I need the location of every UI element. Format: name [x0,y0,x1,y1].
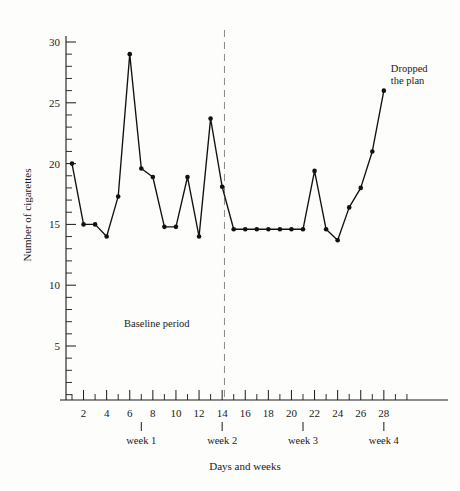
data-point [254,227,259,232]
data-point [116,194,121,199]
data-point [231,227,236,232]
data-point [197,234,202,239]
week-marker-label: week 4 [369,435,400,446]
data-point [127,52,132,57]
x-tick-label: 2 [81,407,87,419]
x-tick-label: 14 [217,407,229,419]
data-point [243,227,248,232]
x-tick-label: 22 [309,407,320,419]
data-point [208,116,213,121]
x-tick-label: 20 [286,407,298,419]
x-tick-label: 4 [104,407,110,419]
data-point [185,175,190,180]
week-marker-label: week 1 [126,435,156,446]
y-axis-title: Number of cigarettes [21,169,33,262]
x-tick-label: 24 [332,407,344,419]
chart-svg: 51015202530 246810121416182022242628 wee… [0,0,460,491]
data-point [358,186,363,191]
x-tick-label: 12 [194,407,205,419]
data-point [382,88,387,93]
data-point [312,169,317,174]
data-point [93,222,98,227]
week-marker-label: week 2 [207,435,237,446]
data-point [162,225,167,230]
data-series-group [70,52,386,243]
data-line [72,54,384,240]
data-point [139,166,144,171]
y-tick-label: 10 [49,279,61,291]
y-tick-label: 30 [49,36,61,48]
data-point [104,234,109,239]
data-point [266,227,271,232]
data-point [278,227,283,232]
y-axis-ticks [66,42,76,395]
y-tick-label: 5 [55,340,61,352]
dropped-the-plan-annotation-line1: Dropped [391,63,428,74]
x-tick-label: 28 [378,407,390,419]
baseline-period-annotation: Baseline period [124,318,190,329]
x-tick-label: 6 [127,407,133,419]
data-point [324,227,329,232]
data-point [347,205,352,210]
x-tick-label: 16 [240,407,252,419]
y-tick-label: 25 [49,97,61,109]
y-tick-label: 15 [49,218,61,230]
x-tick-label: 18 [263,407,275,419]
week-markers-group: week 1week 2week 3week 4 [126,422,399,446]
data-point [301,227,306,232]
dropped-the-plan-annotation-line2: the plan [391,75,425,86]
data-point [81,222,86,227]
x-tick-label: 8 [150,407,156,419]
x-axis-tick-labels: 246810121416182022242628 [81,407,390,419]
data-point [174,225,179,230]
x-axis-ticks [72,390,407,400]
axes-group [60,36,448,400]
week-marker-label: week 3 [288,435,318,446]
data-point [335,238,340,243]
x-tick-label: 10 [170,407,182,419]
data-point [151,175,156,180]
y-tick-label: 20 [49,158,61,170]
data-point [289,227,294,232]
x-tick-label: 26 [355,407,367,419]
x-axis-title: Days and weeks [209,460,280,472]
data-point [70,161,75,166]
cigarettes-line-chart: 51015202530 246810121416182022242628 wee… [0,0,460,491]
data-point-markers [70,52,386,243]
data-point [220,184,225,189]
y-axis-tick-labels: 51015202530 [49,36,61,352]
data-point [370,149,375,154]
